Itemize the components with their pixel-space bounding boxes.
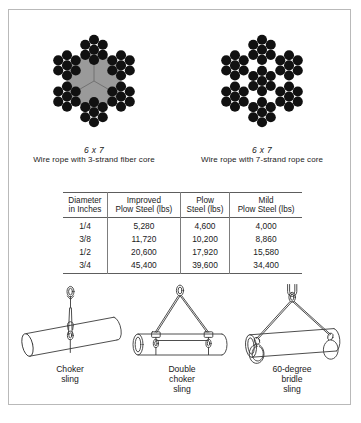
header-line: Plow	[183, 196, 227, 205]
wire-rope-fiber-core-diagram	[9, 20, 179, 145]
header-line: Steel (lbs)	[183, 205, 227, 214]
label-line: sling	[13, 374, 127, 384]
breaking-strength-table: Diameterin Inches ImprovedPlow Steel (lb…	[63, 192, 302, 274]
table-row: 3/445,40039,60034,400	[63, 259, 302, 274]
label-line: sling	[125, 384, 239, 394]
table-cell: 1/2	[63, 246, 107, 259]
wire-rope-figures: 6 x 7 Wire rope with 3-strand fiber core…	[9, 20, 350, 185]
table-header-row: Diameterin Inches ImprovedPlow Steel (lb…	[63, 193, 302, 218]
label-line: sling	[235, 384, 349, 394]
figure-caption-left: 6 x 7 Wire rope with 3-strand fiber core	[9, 146, 179, 164]
table-cell: 17,920	[180, 246, 229, 259]
table-cell: 15,580	[230, 246, 302, 259]
figure-double-choker-sling: Doublechokersling	[125, 282, 239, 402]
sling-figures: Chokersling	[9, 282, 350, 402]
table-cell: 11,720	[107, 233, 180, 246]
label-line: bridle	[235, 374, 349, 384]
figure-left-desc: Wire rope with 3-strand fiber core	[9, 156, 179, 165]
header-line: Mild	[232, 196, 300, 205]
table-header: Diameterin Inches ImprovedPlow Steel (lb…	[63, 193, 302, 218]
label-line: choker	[125, 374, 239, 384]
table-cell: 45,400	[107, 259, 180, 274]
table-cell: 20,600	[107, 246, 180, 259]
label-line: Double	[125, 364, 239, 374]
label-line: 60-degree	[235, 364, 349, 374]
table-cell: 4,000	[230, 218, 302, 233]
table-row: 1/45,2804,6004,000	[63, 218, 302, 233]
header-line: Plow Steel (lbs)	[110, 205, 178, 214]
choker-sling-label: Chokersling	[13, 364, 127, 384]
column-header-improved-plow-steel: ImprovedPlow Steel (lbs)	[107, 193, 180, 218]
table-cell: 1/4	[63, 218, 107, 233]
table-cell: 3/4	[63, 259, 107, 274]
choker-sling-diagram	[13, 282, 127, 364]
figure-bridle-sling: 60-degreebridlesling	[235, 282, 349, 402]
column-header-plow-steel: PlowSteel (lbs)	[180, 193, 229, 218]
bridle-sling-label: 60-degreebridlesling	[235, 364, 349, 394]
figure-choker-sling: Chokersling	[13, 282, 127, 402]
table-cell: 4,600	[180, 218, 229, 233]
wire-rope-rope-core-diagram	[177, 20, 347, 145]
table-row: 1/220,60017,92015,580	[63, 246, 302, 259]
column-header-mild-plow-steel: MildPlow Steel (lbs)	[230, 193, 302, 218]
double-choker-sling-label: Doublechokersling	[125, 364, 239, 394]
column-header-diameter: Diameterin Inches	[63, 193, 107, 218]
double-choker-sling-diagram	[125, 282, 239, 364]
illustration-frame: 6 x 7 Wire rope with 3-strand fiber core…	[8, 9, 351, 405]
header-line: Improved	[110, 196, 178, 205]
figure-wire-rope-rope-core: 6 x 7 Wire rope with 7-strand rope core	[177, 20, 347, 185]
header-line: in Inches	[65, 205, 105, 214]
table-cell: 8,860	[230, 233, 302, 246]
figure-wire-rope-fiber-core: 6 x 7 Wire rope with 3-strand fiber core	[9, 20, 179, 185]
table-cell: 10,200	[180, 233, 229, 246]
table-cell: 5,280	[107, 218, 180, 233]
table-body: 1/45,2804,6004,0003/811,72010,2008,8601/…	[63, 218, 302, 274]
figure-caption-right: 6 x 7 Wire rope with 7-strand rope core	[177, 146, 347, 164]
header-line: Diameter	[65, 196, 105, 205]
table-row: 3/811,72010,2008,860	[63, 233, 302, 246]
figure-right-desc: Wire rope with 7-strand rope core	[177, 156, 347, 165]
header-line: Plow Steel (lbs)	[232, 205, 300, 214]
bridle-sling-diagram	[235, 282, 349, 364]
label-line: Choker	[13, 364, 127, 374]
table-cell: 3/8	[63, 233, 107, 246]
table-cell: 34,400	[230, 259, 302, 274]
breaking-strength-table-wrapper: Diameterin Inches ImprovedPlow Steel (lb…	[63, 192, 302, 274]
table-cell: 39,600	[180, 259, 229, 274]
